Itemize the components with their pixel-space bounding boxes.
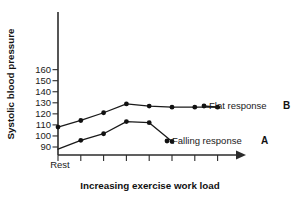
- systolic-blood-pressure-chart: 90100110120130140150160 Rest Systolic bl…: [0, 0, 301, 200]
- y-tick-label: 140: [35, 86, 51, 97]
- y-tick-label: 150: [35, 75, 51, 86]
- y-axis-group: 90100110120130140150160: [35, 12, 58, 155]
- x-axis-title: Increasing exercise work load: [80, 180, 219, 191]
- series-a-data-point: [147, 120, 152, 125]
- series-b-data-point: [147, 104, 152, 109]
- series-b-data-point: [170, 105, 175, 110]
- y-axis-tick-labels: 90100110120130140150160: [35, 64, 51, 152]
- series-b-data-point: [101, 110, 106, 115]
- y-axis-ticks: [53, 70, 59, 147]
- series-b-data-point: [78, 118, 83, 123]
- y-tick-label: 160: [35, 64, 51, 75]
- y-tick-label: 130: [35, 97, 51, 108]
- series-b-annotation-label: Flat response: [209, 100, 267, 111]
- series-falling-response: [58, 119, 174, 149]
- x-axis-ticks: [58, 155, 218, 161]
- chart-figure: 90100110120130140150160 Rest Systolic bl…: [0, 0, 301, 200]
- series-a-annotation-label: Falling response: [172, 135, 242, 146]
- y-axis-title: Systolic blood pressure: [5, 28, 16, 140]
- series-b-annotation-key: B: [283, 100, 290, 111]
- y-tick-label: 90: [40, 141, 51, 152]
- x-axis-arrow-icon: [236, 151, 246, 160]
- series-flat-response: [56, 102, 220, 130]
- annotation-flat-response: Flat response B: [209, 100, 290, 111]
- x-axis-group: Rest: [50, 151, 246, 171]
- y-tick-label: 100: [35, 130, 51, 141]
- annotation-falling-response: Falling response A: [172, 135, 268, 146]
- series-b-data-point: [56, 125, 61, 130]
- x-axis-rest-label: Rest: [50, 159, 70, 170]
- series-a-annotation-key: A: [261, 135, 268, 146]
- series-a-line: [58, 122, 172, 150]
- series-a-data-point: [101, 131, 106, 136]
- y-tick-label: 120: [35, 108, 51, 119]
- series-b-data-point: [192, 105, 197, 110]
- series-a-data-point: [78, 138, 83, 143]
- series-b-points: [56, 102, 220, 130]
- series-a-data-point: [124, 119, 129, 124]
- series-b-data-point: [124, 102, 129, 107]
- y-tick-label: 110: [36, 119, 51, 130]
